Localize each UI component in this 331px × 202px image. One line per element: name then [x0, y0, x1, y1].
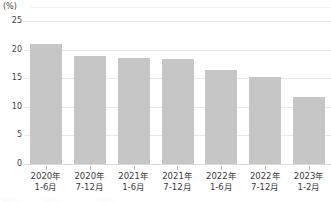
- x-axis-tick-mark: [177, 166, 178, 170]
- bar[interactable]: [118, 58, 150, 164]
- x-axis-tick-label-year: 2020年: [31, 171, 62, 181]
- x-axis-tick-label-period: 1-2月: [287, 182, 331, 193]
- y-axis-unit-label: (%): [3, 2, 17, 12]
- x-axis-tick-label: 2021年7-12月: [156, 171, 200, 193]
- x-axis-tick-label-year: 2022年: [206, 171, 237, 181]
- x-axis-tick-mark: [265, 166, 266, 170]
- x-axis-tick-label-year: 2022年: [250, 171, 281, 181]
- x-axis-tick-label-year: 2021年: [162, 171, 193, 181]
- top-divider-rule: [30, 7, 331, 8]
- bar-column[interactable]: [30, 21, 62, 164]
- x-axis-tick-label-period: 7-12月: [243, 182, 287, 193]
- x-axis-tick-mark: [309, 166, 310, 170]
- bar-column[interactable]: [293, 21, 325, 164]
- x-axis-tick-label-period: 7-12月: [68, 182, 112, 193]
- bar-series: [24, 21, 331, 164]
- x-axis-tick-label-year: 2020年: [74, 171, 105, 181]
- x-axis-tick-mark: [46, 166, 47, 170]
- y-axis-tick-label: 5: [2, 131, 22, 139]
- x-axis-tick-label: 2022年1-6月: [199, 171, 243, 193]
- bar[interactable]: [205, 70, 237, 164]
- x-axis-tick-label: 2020年1-6月: [24, 171, 68, 193]
- x-axis-tick-label-period: 1-6月: [199, 182, 243, 193]
- x-axis-tick-label-year: 2021年: [118, 171, 149, 181]
- bar-column[interactable]: [162, 21, 194, 164]
- bar-column[interactable]: [249, 21, 281, 164]
- bar-chart: (%) 0510152025 2020年1-6月2020年7-12月2021年1…: [0, 0, 331, 202]
- gridline-0: [24, 164, 331, 165]
- bar-column[interactable]: [74, 21, 106, 164]
- bar-column[interactable]: [118, 21, 150, 164]
- x-axis-tick-mark: [134, 166, 135, 170]
- x-axis-tick-label-year: 2023年: [294, 171, 325, 181]
- x-axis-tick-label-period: 1-6月: [112, 182, 156, 193]
- x-axis-tick-label-period: 1-6月: [24, 182, 68, 193]
- x-axis-tick-label: 2021年1-6月: [112, 171, 156, 193]
- x-axis-tick-label: 2020年7-12月: [68, 171, 112, 193]
- bar-column[interactable]: [205, 21, 237, 164]
- plot-area: [24, 21, 331, 164]
- y-axis-tick-label: 20: [2, 46, 22, 54]
- y-axis-tick-label: 25: [2, 17, 22, 25]
- bar[interactable]: [30, 44, 62, 164]
- y-axis-tick-label: 15: [2, 74, 22, 82]
- x-axis-tick-mark: [90, 166, 91, 170]
- y-axis-tick-label: 0: [2, 160, 22, 168]
- bar[interactable]: [162, 59, 194, 164]
- x-axis-tick-label: 2022年7-12月: [243, 171, 287, 193]
- bar[interactable]: [293, 97, 325, 164]
- x-axis-tick-mark: [221, 166, 222, 170]
- x-axis-tick-label: 2023年1-2月: [287, 171, 331, 193]
- bar[interactable]: [249, 77, 281, 164]
- bottom-edge-artifact: [0, 199, 331, 202]
- x-axis-tick-label-period: 7-12月: [156, 182, 200, 193]
- bar[interactable]: [74, 56, 106, 164]
- y-axis-tick-label: 10: [2, 103, 22, 111]
